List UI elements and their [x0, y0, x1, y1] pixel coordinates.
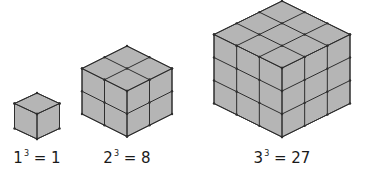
- cube-3: [213, 0, 351, 138]
- cube-label-3: 33 = 27: [254, 150, 311, 166]
- cube-2: [81, 45, 173, 138]
- cubes-diagram: [0, 0, 365, 170]
- cube-1: [13, 92, 60, 140]
- cube-label-1: 13 = 1: [13, 150, 60, 166]
- cube-label-2: 23 = 8: [103, 150, 150, 166]
